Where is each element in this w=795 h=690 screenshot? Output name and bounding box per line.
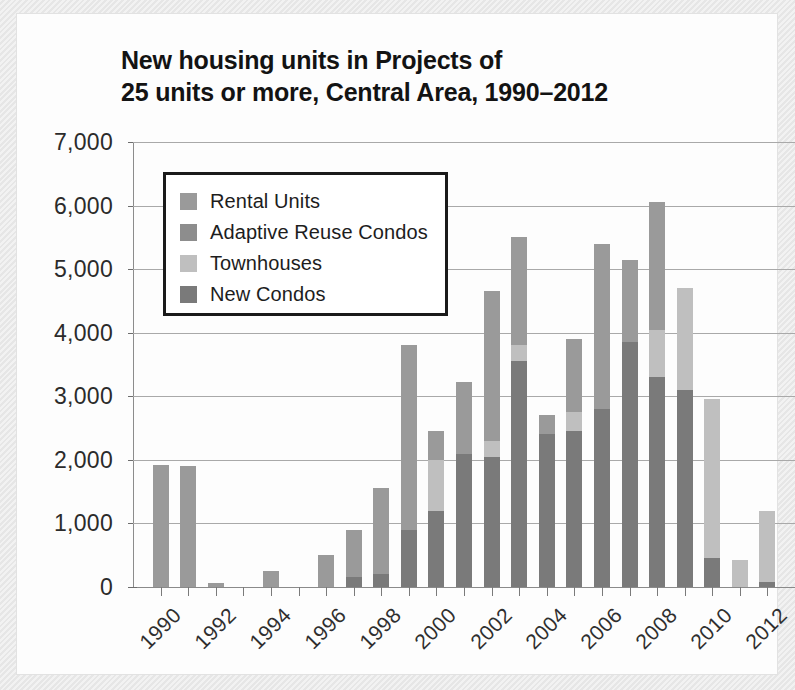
bar-segment xyxy=(539,415,555,434)
x-axis-tick-label: 2010 xyxy=(686,603,737,654)
gridline xyxy=(133,333,795,334)
bar-2001 xyxy=(456,382,472,587)
bar-segment xyxy=(484,291,500,440)
bar-segment xyxy=(759,511,775,582)
bar-2011 xyxy=(732,560,748,587)
bar-segment xyxy=(704,558,720,587)
chart-title: New housing units in Projects of 25 unit… xyxy=(121,44,741,108)
legend-swatch-icon xyxy=(180,255,197,272)
chart-legend: Rental UnitsAdaptive Reuse CondosTownhou… xyxy=(163,172,448,316)
bar-segment xyxy=(511,361,527,587)
x-axis-tick-mark xyxy=(271,587,272,596)
chart-page: New housing units in Projects of 25 unit… xyxy=(0,0,795,690)
bar-1990 xyxy=(153,465,169,587)
bar-segment xyxy=(649,202,665,329)
legend-item-label: Townhouses xyxy=(210,252,322,275)
bar-2007 xyxy=(622,260,638,587)
bar-segment xyxy=(566,431,582,587)
y-axis-tick-label: 5,000 xyxy=(17,256,113,283)
bar-segment xyxy=(511,237,527,345)
x-axis-tick-mark xyxy=(547,587,548,596)
bar-segment xyxy=(346,530,362,578)
legend-swatch-icon xyxy=(180,193,197,210)
bar-segment xyxy=(732,560,748,587)
legend-item-label: Rental Units xyxy=(210,190,320,213)
x-axis-tick-label: 1998 xyxy=(355,603,406,654)
y-axis-tick-label: 4,000 xyxy=(17,319,113,346)
bar-segment xyxy=(759,582,775,587)
bar-segment xyxy=(180,466,196,587)
x-axis-tick-mark xyxy=(712,587,713,596)
bar-segment xyxy=(594,409,610,587)
bar-2003 xyxy=(511,237,527,587)
bar-1992 xyxy=(208,583,224,587)
legend-item-label: New Condos xyxy=(210,283,326,306)
x-axis-tick-mark xyxy=(243,587,244,596)
bar-segment xyxy=(484,441,500,457)
bar-segment xyxy=(153,465,169,587)
bar-segment xyxy=(649,330,665,378)
x-axis-tick-label: 2002 xyxy=(465,603,516,654)
legend-item: Townhouses xyxy=(180,248,445,279)
bar-segment xyxy=(208,583,224,587)
bar-1994 xyxy=(263,571,279,587)
x-axis-tick-mark xyxy=(657,587,658,596)
bar-1996 xyxy=(318,555,334,587)
x-axis-tick-mark xyxy=(464,587,465,596)
bar-segment xyxy=(677,390,693,587)
x-axis-tick-mark xyxy=(740,587,741,596)
x-axis-tick-mark xyxy=(188,587,189,596)
bar-segment xyxy=(428,460,444,511)
bar-segment xyxy=(539,434,555,587)
bar-segment xyxy=(622,342,638,587)
bar-2006 xyxy=(594,244,610,587)
x-axis-tick-label: 1990 xyxy=(134,603,185,654)
x-axis-tick-label: 2008 xyxy=(631,603,682,654)
bar-2005 xyxy=(566,339,582,587)
chart-panel: New housing units in Projects of 25 unit… xyxy=(17,14,777,674)
bar-segment xyxy=(373,574,389,587)
legend-swatch-icon xyxy=(180,224,197,241)
x-axis-tick-label: 1992 xyxy=(190,603,241,654)
y-axis-tick-label: 2,000 xyxy=(17,446,113,473)
bar-segment xyxy=(566,339,582,412)
x-axis-tick-label: 1996 xyxy=(300,603,351,654)
bar-segment xyxy=(484,457,500,587)
y-axis-tick-label: 0 xyxy=(17,574,113,601)
x-axis-tick-mark xyxy=(574,587,575,596)
x-axis-tick-mark xyxy=(409,587,410,596)
x-axis-tick-mark xyxy=(436,587,437,596)
x-axis-tick-mark xyxy=(492,587,493,596)
legend-item: Rental Units xyxy=(180,186,445,217)
x-axis-tick-label: 1994 xyxy=(245,603,296,654)
bar-segment xyxy=(704,399,720,558)
x-axis-tick-label: 2000 xyxy=(410,603,461,654)
x-axis-tick-mark xyxy=(326,587,327,596)
bar-segment xyxy=(401,530,417,587)
x-axis-tick-mark xyxy=(685,587,686,596)
y-axis-tick-label: 6,000 xyxy=(17,192,113,219)
gridline xyxy=(133,142,795,143)
bar-2009 xyxy=(677,288,693,587)
bar-segment xyxy=(456,454,472,588)
bar-2002 xyxy=(484,291,500,587)
x-axis-tick-mark xyxy=(602,587,603,596)
bar-segment xyxy=(566,412,582,431)
bar-segment xyxy=(622,260,638,343)
legend-swatch-icon xyxy=(180,286,197,303)
y-axis-tick-label: 1,000 xyxy=(17,510,113,537)
bar-segment xyxy=(318,555,334,587)
bar-segment xyxy=(428,431,444,460)
bar-2012 xyxy=(759,511,775,587)
x-axis-tick-mark xyxy=(767,587,768,596)
legend-item: New Condos xyxy=(180,279,445,310)
bar-2000 xyxy=(428,431,444,587)
x-axis-tick-label: 2006 xyxy=(576,603,627,654)
x-axis-tick-mark xyxy=(216,587,217,596)
y-axis-tick-label: 3,000 xyxy=(17,383,113,410)
bar-2004 xyxy=(539,415,555,587)
bar-segment xyxy=(263,571,279,587)
bar-segment xyxy=(594,244,610,409)
bar-segment xyxy=(428,511,444,587)
x-axis-tick-mark xyxy=(354,587,355,596)
